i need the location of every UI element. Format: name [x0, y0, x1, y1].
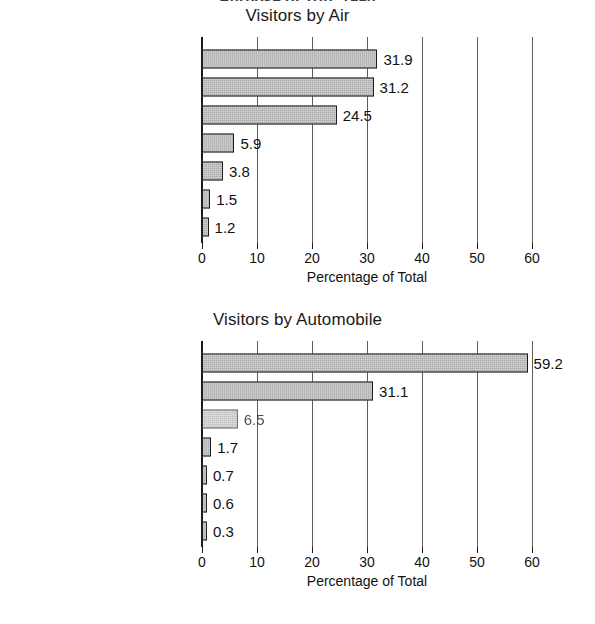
gridline-60 [532, 37, 533, 243]
bar-row: Honeymoon1.2 [202, 213, 532, 241]
bar-row: Vacation31.2 [202, 73, 532, 101]
tick-30 [367, 243, 368, 249]
tick-label-40: 40 [414, 250, 430, 266]
bar-value-label: 1.7 [211, 439, 238, 456]
bar-row: Cruise0.3 [202, 517, 532, 545]
bar-value-label: 0.6 [207, 495, 234, 512]
chart-page: Purpose of Trip, 1990 Visitors by Air Vi… [0, 0, 595, 624]
tick-label-30: 30 [359, 250, 375, 266]
bar-value-label: 59.2 [528, 355, 563, 372]
bar-row: Vacation59.2 [202, 349, 532, 377]
tick-50 [477, 547, 478, 553]
chart-title: Visitors by Automobile [0, 310, 595, 330]
tick-label-20: 20 [304, 554, 320, 570]
bar [202, 438, 211, 457]
bar-row: Visit friends/relatives31.9 [202, 45, 532, 73]
tick-20 [312, 547, 313, 553]
bar-value-label: 24.5 [337, 107, 372, 124]
bar [202, 382, 373, 401]
bar [202, 218, 209, 237]
bar [202, 78, 374, 97]
tick-label-60: 60 [524, 250, 540, 266]
tick-label-50: 50 [469, 250, 485, 266]
bar-row: Convention0.6 [202, 489, 532, 517]
bar-value-label: 31.1 [373, 383, 408, 400]
tick-label-10: 10 [249, 554, 265, 570]
chart-visitors-by-air: Visitors by Air Visit friends/relatives3… [0, 6, 595, 306]
tick-40 [422, 547, 423, 553]
bar-value-label: 31.9 [377, 51, 412, 68]
tick-label-60: 60 [524, 554, 540, 570]
chart-visitors-by-automobile: Visitors by Automobile Vacation59.2Visit… [0, 310, 595, 610]
bar-row: Convention3.8 [202, 157, 532, 185]
tick-60 [532, 243, 533, 249]
clipped-page-header: Purpose of Trip, 1990 [0, 0, 595, 1]
bar [202, 106, 337, 125]
bar-value-label: 0.7 [207, 467, 234, 484]
bar [202, 162, 223, 181]
bar-row: Business24.5 [202, 101, 532, 129]
bar-row: Cruise1.5 [202, 185, 532, 213]
bar-value-label: 6.5 [238, 411, 265, 428]
tick-label-0: 0 [198, 554, 206, 570]
tick-50 [477, 243, 478, 249]
bar-value-label: 0.3 [207, 523, 234, 540]
bar-row: Other5.9 [202, 129, 532, 157]
tick-30 [367, 547, 368, 553]
tick-40 [422, 243, 423, 249]
bar [202, 190, 210, 209]
bar [202, 50, 377, 69]
chart-title: Visitors by Air [0, 6, 595, 26]
bar-value-label: 31.2 [374, 79, 409, 96]
bar-value-label: 3.8 [223, 163, 250, 180]
tick-label-30: 30 [359, 554, 375, 570]
x-axis-label: Percentage of Total [202, 573, 532, 589]
tick-label-20: 20 [304, 250, 320, 266]
x-axis-label: Percentage of Total [202, 269, 532, 285]
bar-value-label: 1.5 [210, 191, 237, 208]
tick-label-0: 0 [198, 250, 206, 266]
bar-row: Other1.7 [202, 433, 532, 461]
bar-value-label: 1.2 [209, 219, 236, 236]
tick-label-50: 50 [469, 554, 485, 570]
plot-area: Visit friends/relatives31.9Vacation31.2B… [202, 42, 532, 240]
tick-10 [257, 243, 258, 249]
tick-label-10: 10 [249, 250, 265, 266]
bar-value-label: 5.9 [234, 135, 261, 152]
tick-20 [312, 243, 313, 249]
gridline-60 [532, 341, 533, 547]
tick-0 [202, 547, 203, 553]
tick-10 [257, 547, 258, 553]
tick-0 [202, 243, 203, 249]
bar [202, 354, 528, 373]
bar-row: Visit friends/relatives31.1 [202, 377, 532, 405]
plot-area: Vacation59.2Visit friends/relatives31.1B… [202, 346, 532, 544]
tick-60 [532, 547, 533, 553]
bar [202, 134, 234, 153]
tick-label-40: 40 [414, 554, 430, 570]
bar [202, 410, 238, 429]
bar-row: Business6.5 [202, 405, 532, 433]
bar-row: Honeymoon0.7 [202, 461, 532, 489]
